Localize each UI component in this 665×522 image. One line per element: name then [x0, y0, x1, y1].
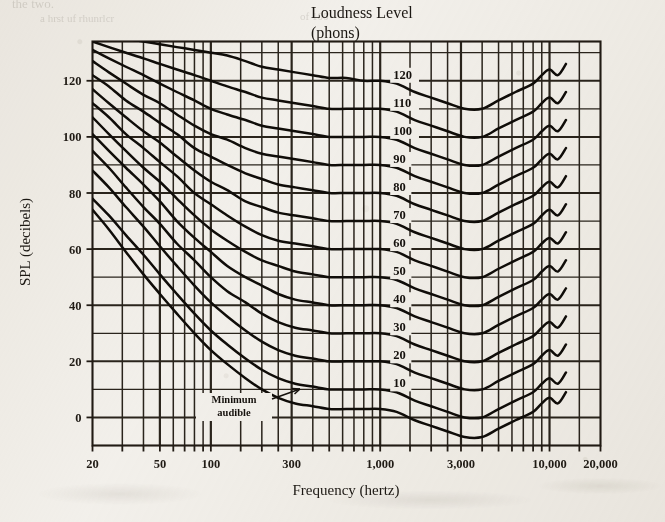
x-tick-label-300: 300 [282, 457, 301, 471]
gridlines-major [93, 42, 601, 446]
annotation-line2: audible [217, 407, 251, 418]
y-tick-label-20: 20 [69, 355, 82, 369]
x-axis-tick-labels: 20501003001,0003,00010,00020,000 [86, 457, 617, 471]
y-tick-label-120: 120 [63, 74, 82, 88]
y-tick-label-0: 0 [75, 411, 81, 425]
contour-label-100: 100 [393, 124, 412, 138]
x-tick-label-3000: 3,000 [447, 457, 475, 471]
contour-label-10: 10 [393, 376, 406, 390]
annotation-line1: Minimum [212, 394, 257, 405]
contour-label-40: 40 [393, 292, 406, 306]
contour-label-80: 80 [393, 180, 406, 194]
y-axis-tick-labels: 020406080100120 [63, 74, 82, 425]
contour-label-90: 90 [393, 152, 406, 166]
chart-title-line1: Loudness Level [311, 4, 413, 21]
y-tick-label-60: 60 [69, 243, 82, 257]
contour-label-30: 30 [393, 320, 406, 334]
y-axis-label: SPL (decibels) [17, 198, 34, 286]
gridlines-minor [93, 42, 601, 446]
x-tick-label-20000: 20,000 [583, 457, 617, 471]
x-axis-label: Frequency (hertz) [292, 482, 399, 499]
x-tick-label-20: 20 [86, 457, 99, 471]
contour-label-70: 70 [393, 208, 406, 222]
contour-label-50: 50 [393, 264, 406, 278]
x-tick-label-10000: 10,000 [532, 457, 566, 471]
contour-label-120: 120 [393, 68, 412, 82]
chart-title-line2: (phons) [311, 24, 360, 42]
annotation-leader-line [272, 389, 300, 399]
x-tick-label-50: 50 [154, 457, 167, 471]
y-tick-label-40: 40 [69, 299, 82, 313]
x-tick-label-1000: 1,000 [366, 457, 394, 471]
equal-loudness-contour-chart: 102030405060708090100110120 20501003001,… [0, 0, 665, 522]
contour-label-60: 60 [393, 236, 406, 250]
figure-page: the two.a hrst uf rhunrlcrof 100 1020304… [0, 0, 665, 522]
x-tick-label-100: 100 [201, 457, 220, 471]
plot-frame [93, 42, 601, 446]
y-tick-label-100: 100 [63, 130, 82, 144]
contour-label-110: 110 [393, 96, 411, 110]
contour-label-20: 20 [393, 348, 406, 362]
minimum-audible-annotation: Minimum audible [196, 389, 300, 422]
y-tick-label-80: 80 [69, 187, 82, 201]
